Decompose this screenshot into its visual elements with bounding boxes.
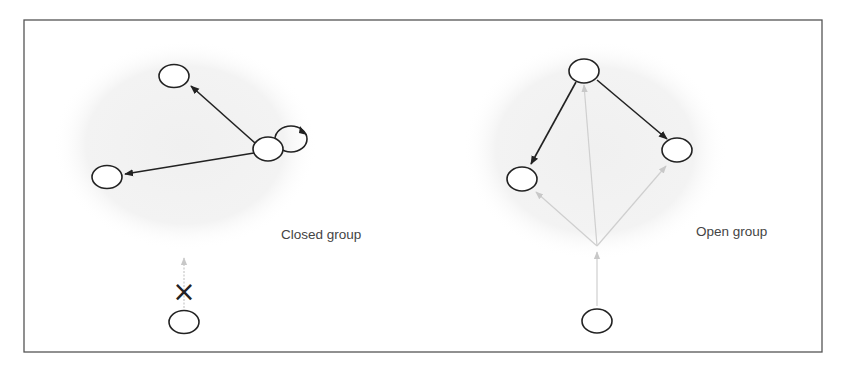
group-diagram: × Closed group Open group — [0, 0, 843, 369]
closed-group-label: Closed group — [281, 227, 361, 242]
open-node-top[interactable] — [569, 59, 599, 83]
closed-node-hub[interactable] — [253, 137, 283, 161]
blocked-x-icon: × — [172, 275, 195, 308]
closed-node-left[interactable] — [92, 166, 122, 189]
closed-node-outside[interactable] — [169, 311, 199, 334]
open-group-label: Open group — [696, 224, 767, 239]
open-node-right[interactable] — [662, 138, 692, 162]
closed-node-top[interactable] — [159, 65, 189, 88]
open-node-outside[interactable] — [582, 309, 612, 333]
open-node-left[interactable] — [507, 167, 537, 191]
